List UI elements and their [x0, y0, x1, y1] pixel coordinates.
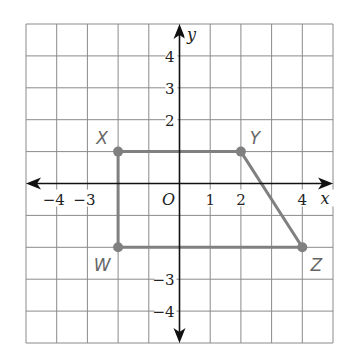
x-tick-label: −3: [73, 191, 95, 209]
x-axis-label: x: [320, 189, 329, 208]
vertex-x-label: X: [95, 128, 108, 148]
y-tick-label: −4: [152, 303, 174, 321]
x-tick-label: 1: [205, 191, 215, 209]
vertex-w-label: W: [94, 255, 112, 275]
tick-labels: −4−3124432−3−4Oxy: [43, 25, 335, 321]
vertex-x-dot: [113, 147, 123, 157]
vertex-y-label: Y: [250, 128, 262, 148]
y-tick-label: −3: [152, 271, 174, 289]
coordinate-plane-figure: −4−3124432−3−4Oxy XYZW: [0, 0, 348, 362]
y-tick-label: 2: [165, 112, 175, 130]
vertex-y-dot: [236, 147, 246, 157]
x-tick-label: 2: [236, 191, 246, 209]
axes: [26, 24, 333, 343]
y-axis-label: y: [186, 25, 197, 44]
vertex-w-dot: [113, 242, 123, 252]
x-tick-label: 4: [298, 191, 308, 209]
origin-label: O: [162, 190, 175, 209]
vertex-z-dot: [297, 242, 307, 252]
y-tick-label: 4: [165, 48, 175, 66]
vertex-z-label: Z: [309, 255, 322, 275]
y-tick-label: 3: [165, 80, 175, 98]
x-tick-label: −4: [43, 191, 65, 209]
